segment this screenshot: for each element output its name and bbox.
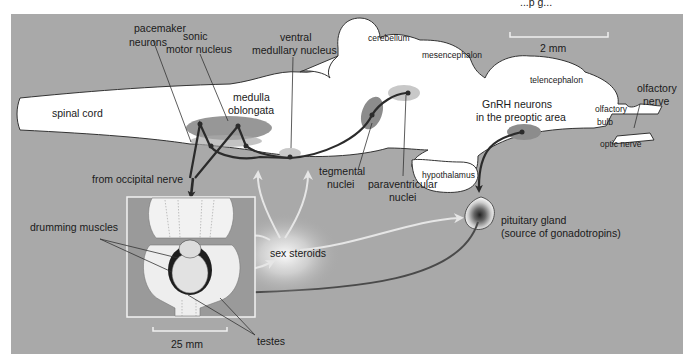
label-drumming-muscles: drumming muscles [30, 221, 118, 233]
label-pacemaker-2: neurons [129, 36, 167, 48]
label-testes: testes [257, 335, 285, 347]
label-ventral-1: ventral [280, 31, 312, 43]
label-ventral-2: medullary nucleus [252, 44, 337, 56]
label-paraventricular-2: nuclei [389, 191, 416, 203]
neuroendocrine-diagram: ...p g... [0, 0, 691, 359]
label-pacemaker-1: pacemaker [134, 22, 186, 34]
label-medulla-1: medulla [233, 91, 270, 103]
label-paraventricular-1: paraventricular [368, 178, 438, 190]
scale-label-25mm: 25 mm [171, 338, 203, 350]
label-pituitary-2: (source of gonadotropins) [501, 227, 621, 239]
label-telencephalon: telencephalon [530, 75, 583, 85]
scale-label-2mm: 2 mm [540, 42, 567, 54]
label-optic-nerve: optic nerve [600, 139, 642, 149]
label-olfactory-bulb-2: bulb [597, 117, 613, 127]
node-paraventricular [406, 91, 411, 96]
node-a [209, 144, 214, 149]
fish-illustration [127, 197, 255, 317]
label-pituitary-1: pituitary gland [501, 214, 567, 226]
node-b [244, 144, 249, 149]
label-olfactory-nerve-1: olfactory [637, 82, 677, 94]
label-cerebellum: cerebellum [368, 33, 410, 43]
label-occipital-nerve: from occipital nerve [92, 173, 183, 185]
label-medulla-2: oblongata [228, 104, 274, 116]
node-ventral [288, 155, 293, 160]
label-olfactory-bulb-1: olfactory [595, 104, 628, 114]
label-olfactory-nerve-2: nerve [643, 95, 669, 107]
node-sonic [236, 124, 241, 129]
label-gnrh-2: in the preoptic area [476, 111, 566, 123]
label-sonic-2: motor nucleus [166, 43, 232, 55]
label-sonic-1: sonic [183, 30, 208, 42]
swim-bladder [172, 253, 208, 293]
node-tegmental [370, 113, 375, 118]
label-tegmental-1: tegmental [319, 165, 365, 177]
diagram-root: ...p g... [0, 0, 691, 359]
label-mesencephalon: mesencephalon [422, 50, 482, 60]
label-sex-steroids: sex steroids [270, 247, 326, 259]
label-spinal-cord: spinal cord [52, 107, 103, 119]
label-gnrh-1: GnRH neurons [482, 98, 552, 110]
bladder-top [179, 240, 201, 258]
node-pacemaker [198, 122, 203, 127]
fish-head [149, 198, 234, 238]
header-partial-text: ...p g... [520, 0, 552, 8]
label-tegmental-2: nuclei [327, 178, 354, 190]
